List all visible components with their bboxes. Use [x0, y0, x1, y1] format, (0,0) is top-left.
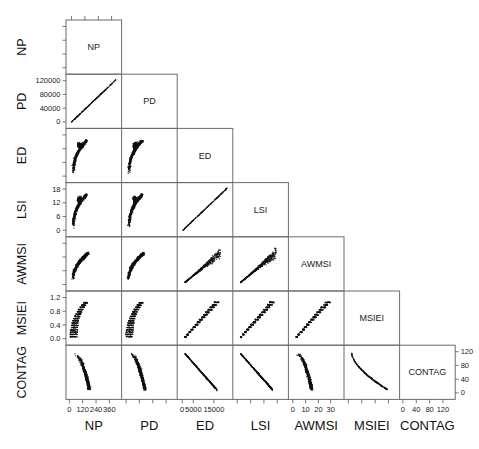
row-axis-label-contag: CONTAG — [15, 346, 29, 399]
row-axis-label-np: NP — [15, 38, 29, 55]
diagonal-label-ed: ED — [199, 151, 212, 161]
diagonal-label-msiei: MSIEI — [360, 313, 385, 323]
row-axis-label-awmsi: AWMSI — [15, 243, 29, 285]
panel-msiei-vs-ed — [184, 301, 219, 338]
row-axis-label-pd: PD — [15, 93, 29, 110]
panel-lsi-vs-pd — [127, 193, 144, 227]
panel-msiei-vs-awmsi — [296, 301, 331, 338]
panel-contag-vs-np — [74, 353, 91, 390]
tick-label: 0 — [56, 117, 60, 126]
column-axis-label-ed: ED — [196, 418, 214, 433]
diagonal-label-awmsi: AWMSI — [301, 259, 331, 269]
panel-awmsi-vs-np — [71, 252, 89, 280]
panel-lsi-vs-np — [72, 193, 88, 228]
tick-label: 0.4 — [50, 321, 60, 330]
tick-label: 360 — [103, 405, 116, 414]
tick-label: 120000 — [35, 76, 60, 85]
tick-label: 80000 — [40, 90, 61, 99]
panel-msiei-vs-pd — [125, 302, 143, 338]
column-axis-label-contag: CONTAG — [400, 418, 455, 433]
panel-awmsi-vs-lsi — [240, 247, 277, 283]
tick-label: 0 — [180, 405, 184, 414]
panel-msiei-vs-lsi — [240, 301, 275, 338]
panel-contag-vs-msiei — [351, 352, 387, 390]
tick-label: 40 — [461, 375, 469, 384]
tick-label: 0 — [67, 405, 71, 414]
panel-contag-vs-ed — [184, 353, 217, 391]
tick-label: 0 — [461, 388, 465, 397]
column-axis-label-np: NP — [85, 418, 103, 433]
tick-label: 120 — [76, 405, 89, 414]
tick-label: 80 — [461, 361, 469, 370]
scatterplot-matrix-figure: NPPDEDLSIAWMSIMSIEICONTAG120000800004000… — [0, 0, 479, 449]
panel-awmsi-vs-ed — [184, 249, 221, 283]
tick-label: 120 — [461, 347, 474, 356]
tick-label: 5000 — [185, 405, 202, 414]
matrix-canvas: NPPDEDLSIAWMSIMSIEICONTAG120000800004000… — [0, 0, 479, 449]
panel-contag-vs-pd — [131, 353, 147, 391]
tick-label: 20 — [314, 405, 322, 414]
column-axis-label-msiei: MSIEI — [354, 418, 389, 433]
column-axis-label-awmsi: AWMSI — [294, 418, 338, 433]
panel-awmsi-vs-pd — [127, 252, 146, 280]
panel-ed-vs-np — [71, 139, 87, 173]
tick-label: 0 — [401, 405, 405, 414]
panel-lsi-vs-ed — [182, 187, 227, 231]
tick-label: 0.8 — [50, 307, 60, 316]
panel-contag-vs-lsi — [240, 353, 273, 391]
matrix-row-frame — [66, 345, 455, 399]
row-axis-label-ed: ED — [15, 147, 29, 164]
tick-label: 18 — [52, 185, 60, 194]
tick-label: 6 — [56, 212, 60, 221]
tick-label: 15000 — [203, 405, 224, 414]
panel-ed-vs-pd — [127, 140, 144, 174]
tick-label: 40 — [412, 405, 420, 414]
tick-label: 0 — [56, 226, 60, 235]
diagonal-label-pd: PD — [143, 96, 156, 106]
tick-label: 40000 — [40, 104, 61, 113]
column-axis-label-lsi: LSI — [251, 418, 271, 433]
diagonal-label-contag: CONTAG — [408, 367, 446, 377]
row-axis-label-msiei: MSIEI — [15, 301, 29, 335]
row-axis-label-lsi: LSI — [15, 200, 29, 219]
tick-label: 0.0 — [50, 334, 60, 343]
tick-label: 10 — [301, 405, 309, 414]
panel-msiei-vs-np — [70, 302, 88, 338]
panel-pd-vs-np — [71, 79, 116, 123]
tick-label: 120 — [437, 405, 450, 414]
tick-label: 0 — [291, 405, 295, 414]
tick-label: 1.2 — [50, 293, 60, 302]
tick-label: 80 — [425, 405, 433, 414]
column-axis-label-pd: PD — [140, 418, 158, 433]
tick-label: 240 — [90, 405, 103, 414]
diagonal-label-np: NP — [88, 42, 101, 52]
tick-label: 30 — [326, 405, 334, 414]
tick-label: 12 — [52, 198, 60, 207]
panel-contag-vs-awmsi — [296, 353, 313, 390]
diagonal-label-lsi: LSI — [254, 205, 268, 215]
